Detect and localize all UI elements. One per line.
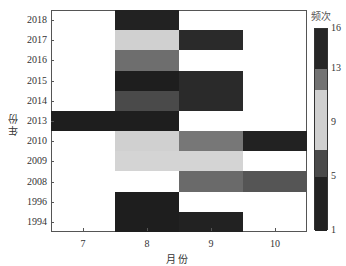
y-tick-label: 2008 [0,177,47,187]
y-tick-label: 2014 [0,96,47,106]
x-tick-label: 10 [260,238,290,249]
heatmap-plot-area [51,10,307,232]
x-tick-mark [147,228,148,231]
y-tick-mark [51,20,54,21]
heatmap-cell [51,111,115,131]
y-tick-label: 2017 [0,35,47,45]
y-tick-mark [51,222,54,223]
y-tick-mark [51,182,54,183]
heatmap-cell [115,91,179,111]
colorbar-tick-label: 9 [331,117,336,127]
x-tick-mark [211,228,212,231]
y-tick-mark [51,40,54,41]
y-tick-label: 2015 [0,76,47,86]
x-tick-mark [275,228,276,231]
y-tick-label: 2010 [0,136,47,146]
y-tick-label: 2016 [0,55,47,65]
heatmap-cell [179,131,243,151]
colorbar-band [315,177,327,231]
heatmap-cell [115,10,179,30]
colorbar-band [315,69,327,89]
heatmap-cell [115,111,179,131]
y-axis-label: 年份 [6,112,21,136]
colorbar-band [315,90,327,151]
heatmap-cell [179,171,243,191]
heatmap-cell [179,91,243,111]
x-tick-label: 9 [196,238,226,249]
y-tick-mark [51,202,54,203]
colorbar-band [315,150,327,177]
y-tick-mark [51,161,54,162]
x-tick-mark [83,228,84,231]
y-tick-label: 2009 [0,156,47,166]
y-tick-label: 2018 [0,15,47,25]
colorbar-tick-label: 5 [331,171,336,181]
y-tick-mark [51,121,54,122]
heatmap-cell [179,71,243,91]
x-axis-label: 月份 [166,251,190,266]
y-tick-mark [51,101,54,102]
heatmap-cell [115,192,179,212]
x-tick-label: 7 [68,238,98,249]
heatmap-cell [179,30,243,50]
heatmap-cell [243,171,307,191]
heatmap-cell [115,30,179,50]
y-tick-label: 1994 [0,217,47,227]
heatmap-cell [115,71,179,91]
colorbar-tick-label: 16 [331,23,341,33]
y-tick-label: 1996 [0,197,47,207]
colorbar-tick-label: 13 [331,63,341,73]
y-tick-mark [51,60,54,61]
colorbar-band [315,29,327,69]
heatmap-cell [179,151,243,171]
y-tick-mark [51,81,54,82]
x-tick-label: 8 [132,238,162,249]
heatmap-cell [115,151,179,171]
heatmap-cell [115,131,179,151]
colorbar [314,28,328,230]
y-tick-mark [51,141,54,142]
colorbar-tick-label: 1 [331,225,336,235]
colorbar-title: 频次 [311,8,331,23]
heatmap-cell [243,131,307,151]
heatmap-cell [115,50,179,70]
